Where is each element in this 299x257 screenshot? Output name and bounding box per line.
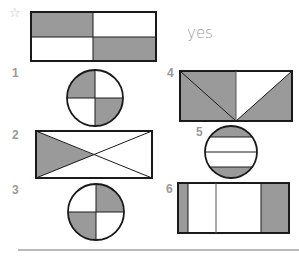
example-rectangle bbox=[31, 12, 156, 61]
figure-3-circle bbox=[68, 184, 124, 240]
fraction-figures bbox=[0, 0, 299, 257]
figure-2-rectangle bbox=[36, 131, 152, 178]
figure-5-circle bbox=[205, 126, 257, 178]
figure-6-rectangle bbox=[178, 183, 289, 233]
figure-1-circle bbox=[67, 70, 123, 126]
figure-4-rectangle bbox=[180, 71, 292, 121]
